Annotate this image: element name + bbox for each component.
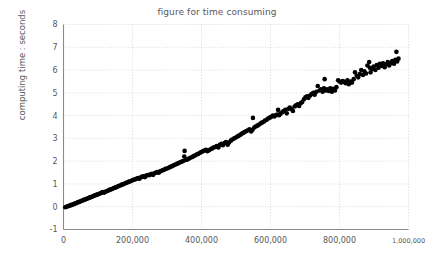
svg-text:400,000: 400,000: [185, 236, 218, 245]
chart-figure: figure for time consuming computing time…: [0, 0, 434, 261]
svg-text:0: 0: [61, 236, 66, 245]
gridlines: [64, 25, 409, 230]
svg-text:0: 0: [52, 203, 57, 212]
svg-text:6: 6: [52, 66, 57, 75]
axis-lines: [64, 25, 409, 230]
svg-text:1,000,000: 1,000,000: [392, 237, 425, 245]
svg-text:-1: -1: [50, 225, 58, 234]
data-points: [63, 50, 401, 210]
svg-text:3: 3: [52, 134, 57, 143]
svg-text:7: 7: [52, 43, 57, 52]
y-tick-labels: -1012345678: [50, 20, 58, 234]
svg-text:200,000: 200,000: [116, 236, 149, 245]
scatter-plot: -1012345678 0200,000400,000600,000800,00…: [0, 0, 434, 261]
svg-text:4: 4: [52, 112, 57, 121]
svg-text:2: 2: [52, 157, 57, 166]
svg-text:5: 5: [52, 89, 57, 98]
svg-text:600,000: 600,000: [254, 236, 287, 245]
svg-text:8: 8: [52, 20, 57, 29]
x-tick-labels: 0200,000400,000600,000800,0001,000,000: [61, 236, 425, 245]
svg-text:1: 1: [52, 180, 57, 189]
svg-text:800,000: 800,000: [323, 236, 356, 245]
